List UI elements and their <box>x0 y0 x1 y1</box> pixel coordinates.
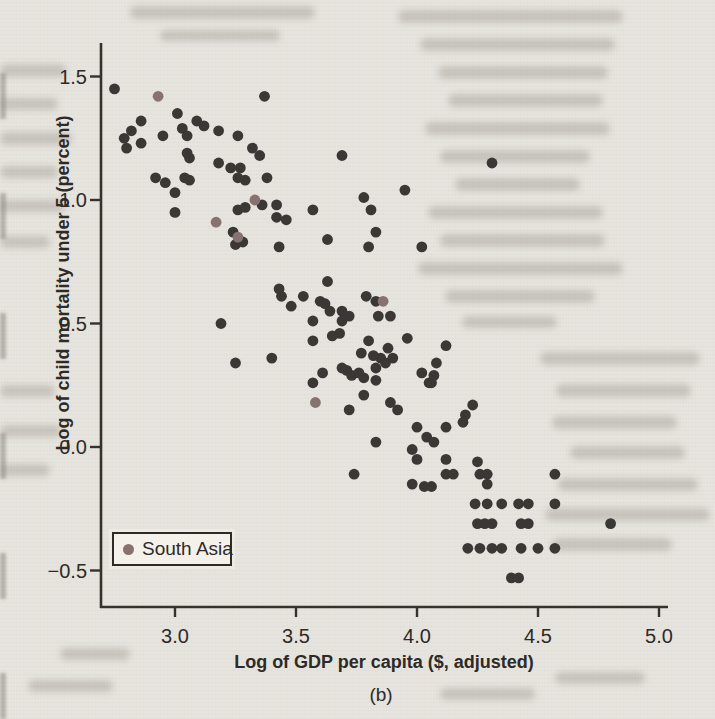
data-point-south-asia <box>310 397 321 408</box>
data-point <box>448 469 459 480</box>
data-point <box>213 125 224 136</box>
data-point <box>158 130 169 141</box>
data-point <box>487 518 498 529</box>
data-point <box>240 202 251 213</box>
data-point <box>429 437 440 448</box>
data-point <box>407 479 418 490</box>
data-point <box>325 306 336 317</box>
data-point <box>308 316 319 327</box>
data-point <box>426 481 437 492</box>
data-point <box>366 205 377 216</box>
data-point <box>400 185 411 196</box>
data-point <box>184 175 195 186</box>
data-point <box>281 214 292 225</box>
data-point <box>513 498 524 509</box>
data-point <box>496 543 507 554</box>
x-tick-label: 4.5 <box>524 625 552 647</box>
y-tick-label: 1.5 <box>59 66 87 88</box>
data-point <box>387 353 398 364</box>
data-point <box>482 479 493 490</box>
data-point <box>431 358 442 369</box>
scatter-plot: 1.51.00.50.0−0.53.03.54.04.55.0 <box>0 0 715 719</box>
data-point <box>416 368 427 379</box>
data-point <box>458 417 469 428</box>
data-point <box>233 130 244 141</box>
data-point <box>271 212 282 223</box>
figure-caption: (b) <box>369 684 392 706</box>
data-point <box>308 377 319 388</box>
data-point <box>416 242 427 253</box>
data-point <box>349 469 360 480</box>
data-point <box>441 340 452 351</box>
data-point <box>363 242 374 253</box>
data-point <box>496 498 507 509</box>
data-point <box>150 172 161 183</box>
data-point <box>172 108 183 119</box>
data-point <box>322 234 333 245</box>
data-point <box>467 400 478 411</box>
data-point <box>482 498 493 509</box>
data-point <box>402 333 413 344</box>
data-point <box>216 318 227 329</box>
data-point <box>472 456 483 467</box>
data-point <box>550 469 561 480</box>
data-point <box>516 543 527 554</box>
data-point <box>358 372 369 383</box>
data-point <box>182 130 193 141</box>
x-tick-label: 3.0 <box>161 625 189 647</box>
data-point <box>286 301 297 312</box>
data-point <box>462 543 473 554</box>
data-point-south-asia <box>153 91 164 102</box>
data-point <box>371 375 382 386</box>
data-point <box>407 444 418 455</box>
data-point <box>358 390 369 401</box>
x-tick-label: 5.0 <box>645 625 673 647</box>
y-axis-title: Log of child mortality under 5 (percent) <box>53 115 74 450</box>
data-point-south-asia <box>250 195 261 206</box>
data-point <box>230 358 241 369</box>
data-point <box>199 121 210 132</box>
data-point <box>371 363 382 374</box>
data-point <box>121 143 132 154</box>
data-point <box>523 518 534 529</box>
data-point <box>441 454 452 465</box>
data-point <box>371 227 382 238</box>
data-point <box>184 153 195 164</box>
data-point <box>356 348 367 359</box>
data-point <box>482 469 493 480</box>
data-point <box>487 543 498 554</box>
legend-marker-icon <box>123 544 134 555</box>
data-point <box>308 205 319 216</box>
legend-box: South Asia <box>112 532 232 566</box>
data-point <box>254 150 265 161</box>
data-point <box>373 311 384 322</box>
data-point-south-asia <box>233 232 244 243</box>
data-point <box>344 405 355 416</box>
data-point <box>266 353 277 364</box>
data-point <box>225 163 236 174</box>
data-point <box>392 405 403 416</box>
data-point <box>136 116 147 127</box>
data-point <box>276 291 287 302</box>
data-point <box>119 133 130 144</box>
data-point <box>487 158 498 169</box>
book-page-scan: 1.51.00.50.0−0.53.03.54.04.55.0 Log of c… <box>0 0 715 719</box>
data-point <box>605 518 616 529</box>
data-point <box>298 291 309 302</box>
data-point <box>109 84 120 95</box>
data-point <box>426 377 437 388</box>
x-tick-label: 3.5 <box>282 625 310 647</box>
data-point <box>235 163 246 174</box>
data-point <box>363 335 374 346</box>
data-point <box>337 316 348 327</box>
x-tick-label: 4.0 <box>403 625 431 647</box>
data-point <box>274 242 285 253</box>
data-point <box>240 175 251 186</box>
data-point <box>136 138 147 149</box>
data-point <box>475 543 486 554</box>
data-point <box>259 91 270 102</box>
data-point <box>308 335 319 346</box>
data-point <box>550 498 561 509</box>
x-axis-title: Log of GDP per capita ($, adjusted) <box>234 652 534 673</box>
data-point-south-asia <box>378 296 389 307</box>
